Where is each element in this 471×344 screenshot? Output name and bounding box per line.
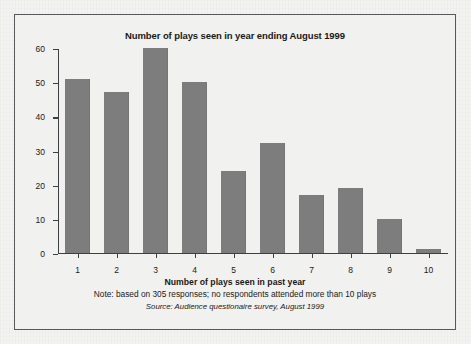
x-tick-label: 7	[309, 265, 314, 275]
y-tick: 30	[53, 152, 58, 153]
plot-area: 0102030405060 12345678910	[58, 49, 448, 254]
x-tick-label: 2	[114, 265, 119, 275]
x-tick-label: 3	[153, 265, 158, 275]
x-tick: 1	[78, 254, 79, 258]
x-tick: 8	[351, 254, 352, 258]
y-axis-line	[58, 49, 59, 254]
x-tick-label: 6	[270, 265, 275, 275]
x-tick: 4	[195, 254, 196, 258]
y-tick: 10	[53, 220, 58, 221]
x-tick: 9	[390, 254, 391, 258]
y-tick: 40	[53, 117, 58, 118]
x-tick-label: 5	[231, 265, 236, 275]
bar	[416, 249, 440, 252]
bar	[377, 219, 401, 253]
y-tick-label: 30	[36, 147, 45, 157]
x-tick: 6	[273, 254, 274, 258]
x-tick: 7	[312, 254, 313, 258]
x-tick: 5	[234, 254, 235, 258]
x-tick: 3	[156, 254, 157, 258]
bar	[338, 188, 362, 253]
chart-note: Note: based on 305 responses; no respond…	[15, 289, 455, 299]
bar	[299, 195, 323, 253]
bar	[65, 79, 89, 253]
x-tick-label: 9	[387, 265, 392, 275]
bar	[260, 143, 284, 252]
bar	[143, 48, 167, 253]
bar	[182, 82, 206, 253]
x-tick: 2	[117, 254, 118, 258]
y-tick-label: 50	[36, 78, 45, 88]
y-tick-label: 20	[36, 181, 45, 191]
bar	[221, 171, 245, 253]
x-tick-label: 8	[348, 265, 353, 275]
y-tick: 0	[53, 254, 58, 255]
y-tick-label: 0	[40, 249, 45, 259]
x-tick-label: 4	[192, 265, 197, 275]
y-tick: 60	[53, 49, 58, 50]
chart-title: Number of plays seen in year ending Augu…	[15, 30, 455, 41]
y-tick-label: 10	[36, 215, 45, 225]
y-tick-label: 40	[36, 112, 45, 122]
bar	[104, 92, 128, 253]
y-tick-label: 60	[36, 44, 45, 54]
x-axis-title: Number of plays seen in past year	[15, 277, 455, 287]
y-tick: 20	[53, 186, 58, 187]
x-tick-label: 1	[75, 265, 80, 275]
chart-source: Source: Audience questionaire survey, Au…	[15, 302, 455, 311]
x-tick-label: 10	[424, 265, 433, 275]
y-tick: 50	[53, 83, 58, 84]
chart-panel: Number of plays seen in year ending Augu…	[14, 14, 456, 330]
x-tick: 10	[429, 254, 430, 258]
